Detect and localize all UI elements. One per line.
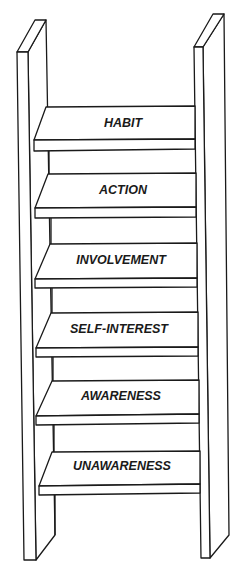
rung-label: SELF-INTEREST bbox=[70, 322, 169, 336]
rung-front bbox=[36, 414, 199, 425]
rung-label: INVOLVEMENT bbox=[76, 253, 167, 267]
rung-involvement: INVOLVEMENT bbox=[35, 243, 197, 313]
rung-front bbox=[35, 278, 197, 288]
rung-front bbox=[36, 347, 198, 357]
rung-habit: HABIT bbox=[34, 106, 195, 175]
rung-label: UNAWARENESS bbox=[73, 459, 172, 473]
rung-label: HABIT bbox=[104, 116, 144, 130]
rung-unawareness: UNAWARENESS bbox=[39, 451, 200, 535]
rung-front bbox=[35, 207, 196, 218]
rung-front bbox=[39, 484, 200, 495]
rung-awareness: AWARENESS bbox=[36, 380, 199, 452]
rung-label: AWARENESS bbox=[80, 389, 162, 403]
rung-label: ACTION bbox=[98, 183, 148, 197]
rung-front bbox=[34, 139, 195, 151]
rung-self-interest: SELF-INTEREST bbox=[36, 312, 198, 382]
ladder-diagram: HABIT ACTION INVOLVEMENT SELF-INTEREST A… bbox=[0, 0, 242, 569]
rung-action: ACTION bbox=[35, 173, 196, 245]
